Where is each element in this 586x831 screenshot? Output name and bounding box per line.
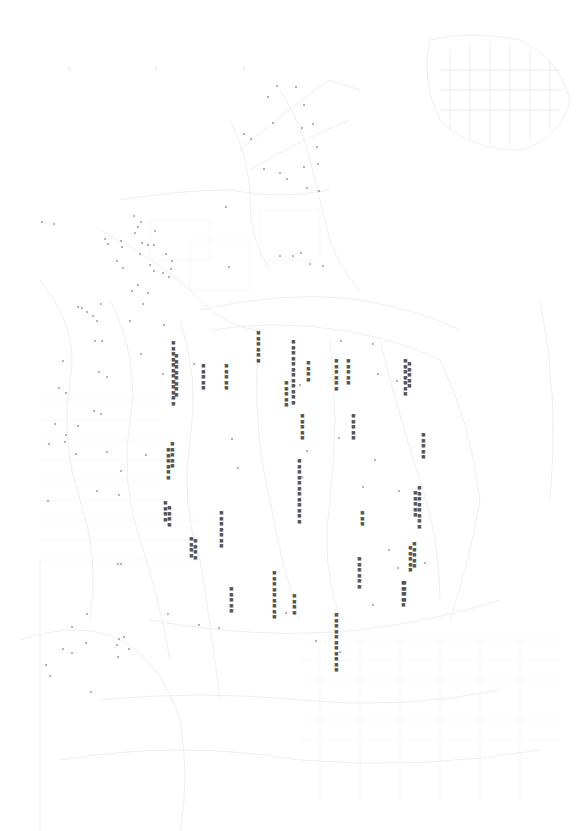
point-marker-icon[interactable]	[228, 266, 230, 268]
point-marker-icon[interactable]	[147, 292, 149, 294]
point-marker-icon[interactable]	[362, 486, 364, 488]
point-marker-icon[interactable]	[106, 451, 108, 453]
point-marker-icon[interactable]	[86, 613, 88, 615]
point-marker-icon[interactable]	[198, 624, 200, 626]
point-marker-icon[interactable]	[86, 311, 88, 313]
point-marker-icon[interactable]	[149, 264, 151, 266]
point-marker-icon[interactable]	[322, 265, 324, 267]
point-marker-icon[interactable]	[295, 86, 297, 88]
point-marker-icon[interactable]	[141, 242, 143, 244]
point-marker-icon[interactable]	[377, 373, 379, 375]
point-marker-icon[interactable]	[98, 371, 100, 373]
point-marker-icon[interactable]	[147, 244, 149, 246]
point-marker-icon[interactable]	[193, 363, 195, 365]
point-marker-icon[interactable]	[85, 642, 87, 644]
point-marker-icon[interactable]	[100, 303, 102, 305]
point-marker-icon[interactable]	[171, 260, 173, 262]
point-marker-icon[interactable]	[285, 612, 287, 614]
point-marker-icon[interactable]	[374, 459, 376, 461]
point-marker-icon[interactable]	[120, 563, 122, 565]
point-marker-icon[interactable]	[58, 387, 60, 389]
point-marker-icon[interactable]	[137, 226, 139, 228]
point-marker-icon[interactable]	[339, 651, 341, 653]
point-marker-icon[interactable]	[45, 664, 47, 666]
point-marker-icon[interactable]	[117, 563, 119, 565]
point-marker-icon[interactable]	[396, 380, 398, 382]
point-marker-icon[interactable]	[104, 238, 106, 240]
point-marker-icon[interactable]	[75, 453, 77, 455]
point-marker-icon[interactable]	[140, 221, 142, 223]
point-marker-icon[interactable]	[139, 253, 141, 255]
point-marker-icon[interactable]	[424, 562, 426, 564]
point-marker-icon[interactable]	[118, 494, 120, 496]
point-marker-icon[interactable]	[170, 268, 172, 270]
point-marker-icon[interactable]	[279, 172, 281, 174]
point-marker-icon[interactable]	[309, 263, 311, 265]
point-marker-icon[interactable]	[299, 384, 301, 386]
point-marker-icon[interactable]	[153, 270, 155, 272]
point-marker-icon[interactable]	[163, 324, 165, 326]
point-marker-icon[interactable]	[96, 490, 98, 492]
point-marker-icon[interactable]	[250, 138, 252, 140]
point-marker-icon[interactable]	[107, 243, 109, 245]
point-marker-icon[interactable]	[54, 423, 56, 425]
point-marker-icon[interactable]	[317, 163, 319, 165]
point-marker-icon[interactable]	[81, 307, 83, 309]
point-marker-icon[interactable]	[315, 640, 317, 642]
point-marker-icon[interactable]	[65, 434, 67, 436]
point-marker-icon[interactable]	[77, 425, 79, 427]
point-marker-icon[interactable]	[237, 467, 239, 469]
point-marker-icon[interactable]	[120, 470, 122, 472]
point-marker-icon[interactable]	[96, 320, 98, 322]
point-marker-icon[interactable]	[267, 96, 269, 98]
point-marker-icon[interactable]	[231, 438, 233, 440]
point-marker-icon[interactable]	[372, 604, 374, 606]
point-marker-icon[interactable]	[218, 627, 220, 629]
point-marker-icon[interactable]	[397, 567, 399, 569]
point-marker-icon[interactable]	[300, 252, 302, 254]
point-marker-icon[interactable]	[128, 648, 130, 650]
point-marker-icon[interactable]	[263, 168, 265, 170]
point-marker-icon[interactable]	[123, 636, 125, 638]
point-marker-icon[interactable]	[116, 260, 118, 262]
point-marker-icon[interactable]	[372, 343, 374, 345]
point-marker-icon[interactable]	[106, 376, 108, 378]
point-marker-icon[interactable]	[122, 267, 124, 269]
point-marker-icon[interactable]	[140, 353, 142, 355]
point-marker-icon[interactable]	[312, 123, 314, 125]
point-marker-icon[interactable]	[398, 490, 400, 492]
point-marker-icon[interactable]	[303, 166, 305, 168]
point-marker-icon[interactable]	[165, 253, 167, 255]
point-marker-icon[interactable]	[65, 392, 67, 394]
point-marker-icon[interactable]	[272, 122, 274, 124]
point-marker-icon[interactable]	[47, 500, 49, 502]
point-marker-icon[interactable]	[142, 303, 144, 305]
point-marker-icon[interactable]	[306, 450, 308, 452]
point-marker-icon[interactable]	[118, 638, 120, 640]
point-marker-icon[interactable]	[92, 315, 94, 317]
point-marker-icon[interactable]	[62, 648, 64, 650]
point-marker-icon[interactable]	[301, 127, 303, 129]
point-marker-icon[interactable]	[167, 613, 169, 615]
point-marker-icon[interactable]	[116, 644, 118, 646]
point-marker-icon[interactable]	[340, 340, 342, 342]
point-marker-icon[interactable]	[71, 652, 73, 654]
point-marker-icon[interactable]	[100, 413, 102, 415]
point-marker-icon[interactable]	[306, 187, 308, 189]
point-marker-icon[interactable]	[292, 255, 294, 257]
point-marker-icon[interactable]	[162, 373, 164, 375]
point-marker-icon[interactable]	[276, 85, 278, 87]
point-marker-icon[interactable]	[316, 146, 318, 148]
point-marker-icon[interactable]	[90, 691, 92, 693]
point-marker-icon[interactable]	[168, 276, 170, 278]
point-marker-icon[interactable]	[94, 340, 96, 342]
point-marker-icon[interactable]	[338, 437, 340, 439]
point-marker-icon[interactable]	[154, 230, 156, 232]
point-marker-icon[interactable]	[225, 206, 227, 208]
point-marker-icon[interactable]	[318, 190, 320, 192]
point-marker-icon[interactable]	[153, 244, 155, 246]
point-marker-icon[interactable]	[388, 549, 390, 551]
point-marker-icon[interactable]	[121, 246, 123, 248]
point-marker-icon[interactable]	[131, 290, 133, 292]
point-marker-icon[interactable]	[101, 340, 103, 342]
